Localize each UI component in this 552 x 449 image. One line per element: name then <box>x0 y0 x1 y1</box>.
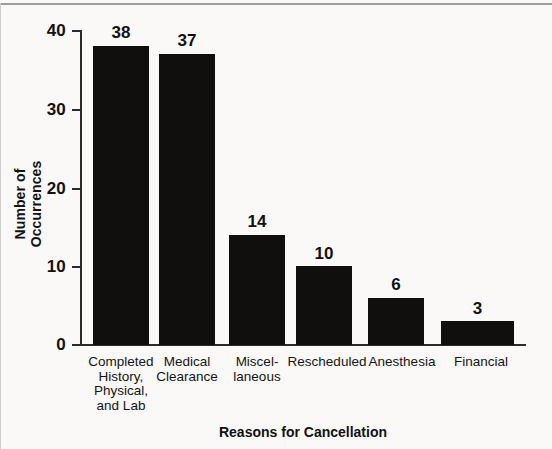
bar-financial <box>441 321 514 345</box>
x-category-label-4: Anesthesia <box>362 355 442 370</box>
x-category-label-0-line-2: Physical, <box>75 384 167 399</box>
bar-value-5: 3 <box>441 299 514 319</box>
x-category-label-5: Financial <box>442 355 520 370</box>
bar-value-4: 6 <box>368 275 424 295</box>
x-category-label-3: Rescheduled <box>285 355 369 370</box>
y-tick-10 <box>72 266 81 268</box>
bar-miscellaneous <box>229 235 285 345</box>
y-tick-label-40-wrap: 40 <box>22 21 66 39</box>
y-tick-label-0-wrap: 0 <box>22 335 66 353</box>
y-tick-label-40: 40 <box>26 21 66 41</box>
y-tick-label-30-wrap: 30 <box>22 100 66 118</box>
plot-area: 40 30 20 10 0 38 37 14 10 6 3 <box>0 0 552 449</box>
x-category-label-3-line-0: Rescheduled <box>285 355 369 370</box>
bar-value-1: 37 <box>159 31 215 51</box>
x-axis-title: Reasons for Cancellation <box>80 424 526 440</box>
bar-completed-history-physical-and-lab <box>93 46 149 345</box>
bar-medical-clearance <box>159 54 215 345</box>
x-category-label-0-line-3: and Lab <box>75 399 167 414</box>
bar-value-3: 10 <box>296 244 352 264</box>
bar-value-0: 38 <box>93 23 149 43</box>
y-tick-30 <box>72 109 81 111</box>
x-category-label-4-line-0: Anesthesia <box>362 355 442 370</box>
bar-chart-figure: 40 30 20 10 0 38 37 14 10 6 3 <box>0 0 552 449</box>
bar-rescheduled <box>296 266 352 345</box>
y-tick-20 <box>72 188 81 190</box>
y-axis-title: Number of Occurrences <box>12 124 44 284</box>
x-category-label-2-line-1: laneous <box>215 370 299 385</box>
bar-value-2: 14 <box>229 212 285 232</box>
bar-anesthesia <box>368 298 424 345</box>
y-tick-label-0: 0 <box>26 335 66 355</box>
y-tick-label-30: 30 <box>26 100 66 120</box>
y-tick-40 <box>72 30 81 32</box>
y-tick-0 <box>72 344 81 346</box>
x-category-label-5-line-0: Financial <box>442 355 520 370</box>
